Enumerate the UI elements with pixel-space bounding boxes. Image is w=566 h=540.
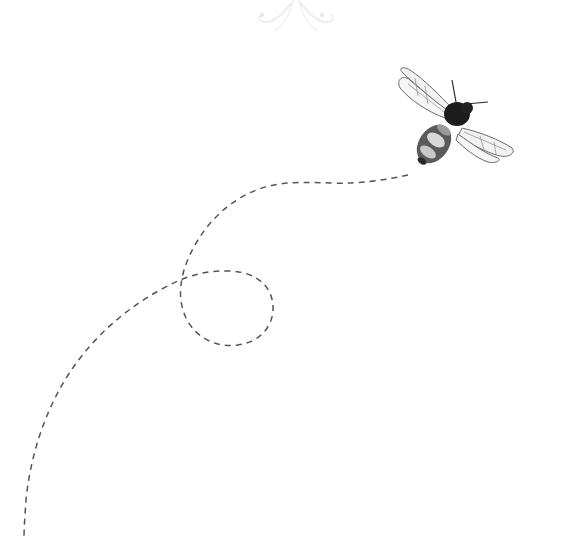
flourish-icon	[259, 0, 333, 30]
illustration-canvas	[0, 0, 566, 540]
flight-path	[24, 175, 408, 538]
bee-icon	[399, 68, 514, 170]
